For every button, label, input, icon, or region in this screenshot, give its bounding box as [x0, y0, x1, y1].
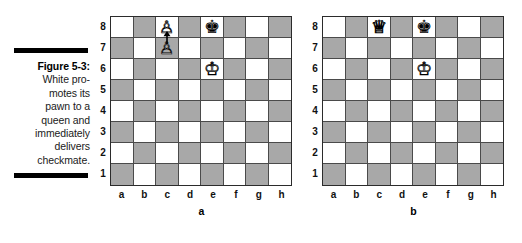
square-a-b8[interactable]	[134, 17, 157, 38]
square-a-c1[interactable]	[156, 164, 179, 185]
square-a-d4[interactable]	[179, 101, 202, 122]
square-a-e8[interactable]: ♚	[201, 17, 224, 38]
square-a-h1[interactable]	[269, 164, 292, 185]
square-a-g4[interactable]	[246, 101, 269, 122]
square-b-g5[interactable]	[458, 80, 481, 101]
square-a-c3[interactable]	[156, 122, 179, 143]
square-a-e3[interactable]	[201, 122, 224, 143]
square-a-g5[interactable]	[246, 80, 269, 101]
square-b-d8[interactable]	[391, 17, 414, 38]
square-a-b4[interactable]	[134, 101, 157, 122]
square-a-e6[interactable]: ♔	[201, 59, 224, 80]
square-b-b2[interactable]	[346, 143, 369, 164]
chessboard-b[interactable]: ♕♚♔	[322, 16, 504, 186]
square-b-d7[interactable]	[391, 38, 414, 59]
square-b-a4[interactable]	[323, 101, 346, 122]
square-b-g6[interactable]	[458, 59, 481, 80]
square-b-b3[interactable]	[346, 122, 369, 143]
square-b-h1[interactable]	[481, 164, 504, 185]
square-b-c1[interactable]	[368, 164, 391, 185]
square-a-b1[interactable]	[134, 164, 157, 185]
square-a-d8[interactable]	[179, 17, 202, 38]
square-a-d5[interactable]	[179, 80, 202, 101]
square-a-a1[interactable]	[111, 164, 134, 185]
square-b-d2[interactable]	[391, 143, 414, 164]
square-a-b3[interactable]	[134, 122, 157, 143]
square-a-e1[interactable]	[201, 164, 224, 185]
square-a-h2[interactable]	[269, 143, 292, 164]
square-b-f7[interactable]	[436, 38, 459, 59]
square-a-a5[interactable]	[111, 80, 134, 101]
square-b-c6[interactable]	[368, 59, 391, 80]
square-a-d1[interactable]	[179, 164, 202, 185]
square-b-e5[interactable]	[413, 80, 436, 101]
square-b-c7[interactable]	[368, 38, 391, 59]
square-b-a7[interactable]	[323, 38, 346, 59]
square-b-h2[interactable]	[481, 143, 504, 164]
piece-white-pawn-promoting-c8[interactable]: ♙	[159, 19, 174, 36]
square-a-d6[interactable]	[179, 59, 202, 80]
chessboard-a[interactable]: ♙♚♙♔	[110, 16, 292, 186]
square-a-c8[interactable]: ♙	[156, 17, 179, 38]
square-b-e7[interactable]	[413, 38, 436, 59]
square-b-g3[interactable]	[458, 122, 481, 143]
square-b-f5[interactable]	[436, 80, 459, 101]
square-b-h7[interactable]	[481, 38, 504, 59]
square-b-b5[interactable]	[346, 80, 369, 101]
square-b-h4[interactable]	[481, 101, 504, 122]
square-b-e4[interactable]	[413, 101, 436, 122]
square-a-d3[interactable]	[179, 122, 202, 143]
square-b-g4[interactable]	[458, 101, 481, 122]
square-a-a2[interactable]	[111, 143, 134, 164]
square-a-g7[interactable]	[246, 38, 269, 59]
square-b-c8[interactable]: ♕	[368, 17, 391, 38]
square-b-a5[interactable]	[323, 80, 346, 101]
piece-white-queen-c8[interactable]: ♕	[371, 18, 387, 36]
square-b-h6[interactable]	[481, 59, 504, 80]
square-b-f4[interactable]	[436, 101, 459, 122]
piece-white-king-e6[interactable]: ♔	[416, 60, 432, 78]
square-b-h8[interactable]	[481, 17, 504, 38]
square-a-g3[interactable]	[246, 122, 269, 143]
square-b-a3[interactable]	[323, 122, 346, 143]
square-b-c3[interactable]	[368, 122, 391, 143]
square-a-f8[interactable]	[224, 17, 247, 38]
square-a-c7[interactable]: ♙	[156, 38, 179, 59]
piece-white-king-e6[interactable]: ♔	[204, 60, 220, 78]
square-b-g8[interactable]	[458, 17, 481, 38]
square-a-b7[interactable]	[134, 38, 157, 59]
square-a-e7[interactable]	[201, 38, 224, 59]
square-a-g8[interactable]	[246, 17, 269, 38]
square-b-f1[interactable]	[436, 164, 459, 185]
square-a-h3[interactable]	[269, 122, 292, 143]
square-b-f3[interactable]	[436, 122, 459, 143]
square-a-a8[interactable]	[111, 17, 134, 38]
square-a-a4[interactable]	[111, 101, 134, 122]
square-b-d4[interactable]	[391, 101, 414, 122]
square-a-d7[interactable]	[179, 38, 202, 59]
square-a-c5[interactable]	[156, 80, 179, 101]
square-a-f6[interactable]	[224, 59, 247, 80]
square-a-a3[interactable]	[111, 122, 134, 143]
square-b-g2[interactable]	[458, 143, 481, 164]
square-b-d1[interactable]	[391, 164, 414, 185]
square-a-h8[interactable]	[269, 17, 292, 38]
square-b-e8[interactable]: ♚	[413, 17, 436, 38]
square-b-d3[interactable]	[391, 122, 414, 143]
square-b-h5[interactable]	[481, 80, 504, 101]
square-a-e2[interactable]	[201, 143, 224, 164]
square-b-a6[interactable]	[323, 59, 346, 80]
square-a-c2[interactable]	[156, 143, 179, 164]
square-a-a7[interactable]	[111, 38, 134, 59]
square-b-c2[interactable]	[368, 143, 391, 164]
square-b-b6[interactable]	[346, 59, 369, 80]
square-a-b6[interactable]	[134, 59, 157, 80]
square-a-b2[interactable]	[134, 143, 157, 164]
square-b-f2[interactable]	[436, 143, 459, 164]
square-b-f6[interactable]	[436, 59, 459, 80]
square-a-f7[interactable]	[224, 38, 247, 59]
square-b-e2[interactable]	[413, 143, 436, 164]
square-b-b4[interactable]	[346, 101, 369, 122]
square-b-e6[interactable]: ♔	[413, 59, 436, 80]
square-b-e3[interactable]	[413, 122, 436, 143]
